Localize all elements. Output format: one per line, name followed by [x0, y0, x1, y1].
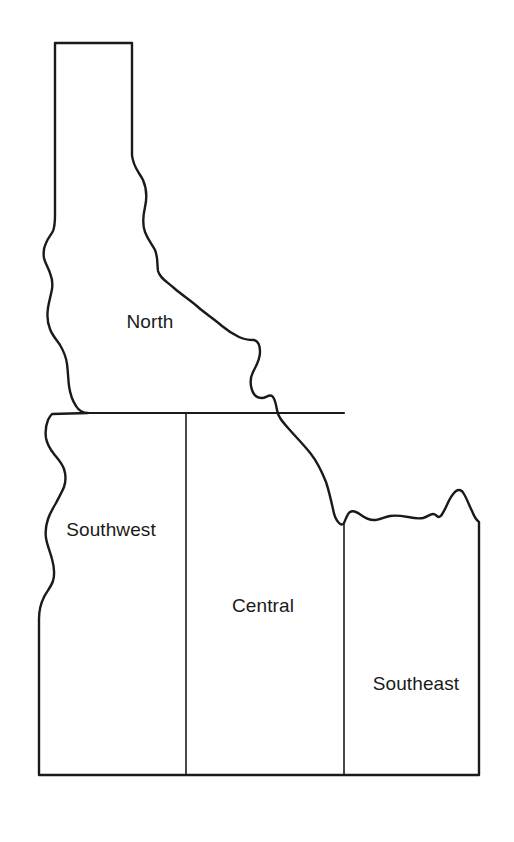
idaho-regions-map	[0, 0, 514, 842]
region-label-southwest: Southwest	[66, 519, 156, 541]
region-label-southeast: Southeast	[373, 673, 459, 695]
map-container: North Southwest Central Southeast	[0, 0, 514, 842]
region-label-central: Central	[232, 595, 294, 617]
region-label-north: North	[127, 311, 174, 333]
